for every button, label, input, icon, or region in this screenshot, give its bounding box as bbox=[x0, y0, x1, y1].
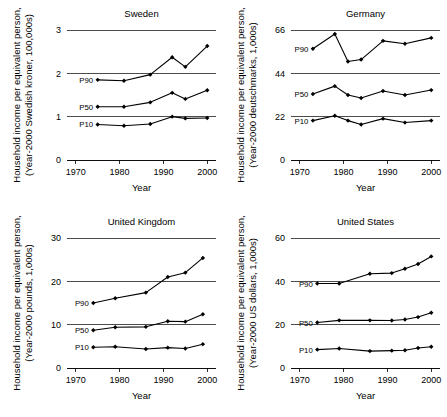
series-label-p10: P10 bbox=[75, 343, 90, 352]
x-tick-label: 1980 bbox=[334, 167, 354, 177]
gridlines-sweden bbox=[67, 30, 216, 160]
series-p10-united-kingdom: P10 bbox=[75, 342, 205, 352]
y-tick-label: 10 bbox=[51, 320, 61, 330]
x-tick-label: 1990 bbox=[377, 375, 397, 385]
series-p50-sweden: P50 bbox=[79, 88, 209, 112]
x-tick-label: 1970 bbox=[66, 375, 86, 385]
y-tick-label: 0 bbox=[56, 155, 61, 165]
y-axis-title-line2-germany: (Year-2000 deutschmarks, 1,000s) bbox=[247, 22, 258, 167]
y-axis-title-line1-germany: Household income per equivalent person, bbox=[235, 7, 246, 182]
figure-panel-grid: Sweden01231970198019902000YearHousehold … bbox=[0, 0, 447, 417]
y-axis-ticks-united-kingdom: 0102030 bbox=[51, 233, 61, 373]
series-label-p50: P50 bbox=[75, 326, 90, 335]
y-axis-title-line2-sweden: (Year-2000 Swedish kroner, 100,000s) bbox=[23, 14, 34, 176]
series-label-p10: P10 bbox=[299, 346, 314, 355]
x-tick-label: 2000 bbox=[197, 167, 217, 177]
series-label-p50: P50 bbox=[299, 319, 314, 328]
y-tick-label: 30 bbox=[51, 233, 61, 243]
y-axis-title-line1-united-kingdom: Household income per equivalent person, bbox=[11, 215, 22, 390]
chart-panel-united-kingdom: United Kingdom01020301970198019902000Yea… bbox=[0, 208, 223, 416]
y-axis-title-line1-united-states: Household income per equivalent person, bbox=[235, 215, 246, 390]
chart-svg-united-kingdom: United Kingdom01020301970198019902000Yea… bbox=[0, 208, 223, 416]
y-tick-label: 20 bbox=[275, 320, 285, 330]
panel-title-united-states: United States bbox=[337, 216, 394, 227]
x-tick-label: 1990 bbox=[377, 167, 397, 177]
x-axis-title-united-states: Year bbox=[356, 390, 375, 401]
series-p10-germany: P10 bbox=[295, 113, 434, 126]
x-tick-label: 2000 bbox=[421, 167, 441, 177]
series-p90-united-kingdom: P90 bbox=[75, 256, 205, 308]
x-axis-united-states: 1970198019902000 bbox=[290, 368, 442, 385]
x-tick-label: 1980 bbox=[110, 375, 130, 385]
series-label-p50: P50 bbox=[295, 90, 310, 99]
series-label-p10: P10 bbox=[79, 120, 94, 129]
y-axis-title-line2-united-kingdom: (Year-2000 pounds, 1,000s) bbox=[23, 244, 34, 361]
chart-panel-sweden: Sweden01231970198019902000YearHousehold … bbox=[0, 0, 223, 208]
series-p10-united-states: P10 bbox=[299, 345, 434, 355]
x-tick-label: 1980 bbox=[334, 375, 354, 385]
x-tick-label: 2000 bbox=[197, 375, 217, 385]
y-tick-label: 60 bbox=[275, 233, 285, 243]
series-label-p50: P50 bbox=[79, 103, 94, 112]
chart-panel-united-states: United States02040601970198019902000Year… bbox=[224, 208, 447, 416]
x-tick-label: 1990 bbox=[153, 167, 173, 177]
y-tick-label: 20 bbox=[51, 277, 61, 287]
x-axis-united-kingdom: 1970198019902000 bbox=[66, 368, 218, 385]
chart-svg-germany: Germany02244661970198019902000YearHouseh… bbox=[224, 0, 447, 208]
y-tick-label: 3 bbox=[56, 25, 61, 35]
series-label-p90: P90 bbox=[79, 76, 94, 85]
y-tick-label: 0 bbox=[280, 363, 285, 373]
y-axis-ticks-united-states: 0204060 bbox=[275, 233, 285, 373]
panel-title-united-kingdom: United Kingdom bbox=[108, 216, 176, 227]
y-tick-label: 0 bbox=[280, 155, 285, 165]
y-tick-label: 0 bbox=[56, 363, 61, 373]
y-tick-label: 1 bbox=[56, 112, 61, 122]
x-axis-title-germany: Year bbox=[356, 182, 375, 193]
chart-svg-sweden: Sweden01231970198019902000YearHousehold … bbox=[0, 0, 223, 208]
x-axis-sweden: 1970198019902000 bbox=[66, 160, 218, 177]
y-tick-label: 22 bbox=[275, 112, 285, 122]
series-p90-sweden: P90 bbox=[79, 44, 209, 85]
y-tick-label: 44 bbox=[275, 69, 285, 79]
series-label-p90: P90 bbox=[299, 280, 314, 289]
series-p50-united-kingdom: P50 bbox=[75, 312, 205, 335]
series-label-p10: P10 bbox=[295, 117, 310, 126]
series-p90-united-states: P90 bbox=[299, 254, 434, 288]
y-axis-ticks-germany: 0224466 bbox=[275, 25, 285, 165]
x-tick-label: 2000 bbox=[421, 375, 441, 385]
x-tick-label: 1990 bbox=[153, 375, 173, 385]
x-tick-label: 1970 bbox=[290, 167, 310, 177]
x-axis-title-united-kingdom: Year bbox=[132, 390, 151, 401]
panel-title-germany: Germany bbox=[346, 8, 385, 19]
series-p50-germany: P50 bbox=[295, 84, 434, 100]
series-label-p90: P90 bbox=[75, 299, 90, 308]
x-axis-germany: 1970198019902000 bbox=[290, 160, 442, 177]
y-tick-label: 2 bbox=[56, 69, 61, 79]
x-tick-label: 1980 bbox=[110, 167, 130, 177]
panel-title-sweden: Sweden bbox=[124, 8, 158, 19]
chart-panel-germany: Germany02244661970198019902000YearHouseh… bbox=[224, 0, 447, 208]
y-axis-title-line2-united-states: (Year-2000 US dollars, 1,000s) bbox=[247, 238, 258, 368]
chart-svg-united-states: United States02040601970198019902000Year… bbox=[224, 208, 447, 416]
y-axis-ticks-sweden: 0123 bbox=[56, 25, 61, 165]
series-p90-germany: P90 bbox=[295, 32, 434, 64]
x-tick-label: 1970 bbox=[66, 167, 86, 177]
y-tick-label: 66 bbox=[275, 25, 285, 35]
x-axis-title-sweden: Year bbox=[132, 182, 151, 193]
y-tick-label: 40 bbox=[275, 277, 285, 287]
x-tick-label: 1970 bbox=[290, 375, 310, 385]
series-label-p90: P90 bbox=[295, 45, 310, 54]
y-axis-title-line1-sweden: Household income per equivalent person, bbox=[11, 7, 22, 182]
